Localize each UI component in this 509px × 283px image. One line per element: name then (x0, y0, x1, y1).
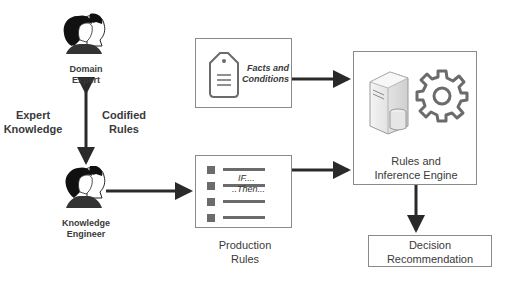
production-rules-label: Production Rules (205, 238, 285, 266)
inference-engine-box: Rules and Inference Engine (353, 51, 477, 185)
if-text: IF.... (238, 173, 255, 183)
codified-rules-label: Codified Rules (96, 108, 152, 136)
people-icon (56, 166, 116, 212)
facts-conditions-label: Facts and Conditions (235, 63, 289, 85)
domain-expert-node (56, 10, 116, 56)
production-rules-box: IF.... ..Then... (195, 155, 292, 228)
inference-engine-label: Rules and Inference Engine (354, 154, 478, 182)
domain-expert-label: Domain Expert (56, 64, 116, 86)
gear-icon (414, 68, 470, 124)
decision-recommendation-label: Decision Recommendation (369, 238, 491, 266)
expert-knowledge-label: Expert Knowledge (0, 108, 66, 136)
knowledge-engineer-label: Knowledge Engineer (50, 218, 122, 240)
knowledge-engineer-node (56, 166, 116, 212)
server-database-icon (364, 68, 414, 138)
then-text: ..Then... (232, 184, 265, 194)
people-icon (56, 10, 116, 56)
facts-conditions-box: Facts and Conditions (195, 38, 292, 108)
decision-recommendation-box: Decision Recommendation (368, 235, 492, 267)
